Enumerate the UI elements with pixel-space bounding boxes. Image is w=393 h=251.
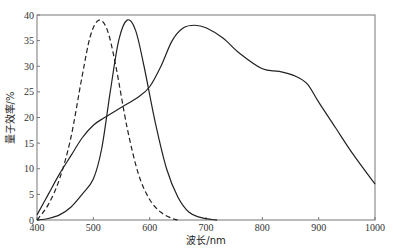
y-tick-label: 10: [24, 163, 34, 174]
y-tick-label: 35: [24, 35, 34, 46]
dashed-curve: [37, 20, 178, 220]
y-axis-title: 量子效率/%: [4, 92, 16, 145]
quantum-efficiency-chart: 0510152025303540 4005006007008009001000 …: [0, 0, 393, 251]
x-tick-label: 900: [311, 222, 326, 233]
x-tick-label: 600: [142, 222, 157, 233]
y-tick-label: 5: [29, 189, 34, 200]
y-tick-label: 40: [24, 10, 34, 21]
x-axis-title: 波长/nm: [186, 234, 225, 246]
y-tick-label: 30: [24, 61, 34, 72]
y-tick-label: 20: [24, 112, 34, 123]
x-tick-label: 1000: [365, 222, 385, 233]
x-tick-label: 500: [86, 222, 101, 233]
y-tick-label: 15: [24, 138, 34, 149]
solid-narrow-curve: [37, 20, 217, 220]
plot-frame: [37, 15, 375, 220]
y-axis: 0510152025303540: [24, 10, 40, 226]
x-tick-label: 700: [199, 222, 214, 233]
solid-broad-curve: [37, 25, 375, 215]
x-tick-label: 800: [255, 222, 270, 233]
data-series: [37, 20, 375, 220]
y-tick-label: 25: [24, 86, 34, 97]
x-tick-label: 400: [30, 222, 45, 233]
